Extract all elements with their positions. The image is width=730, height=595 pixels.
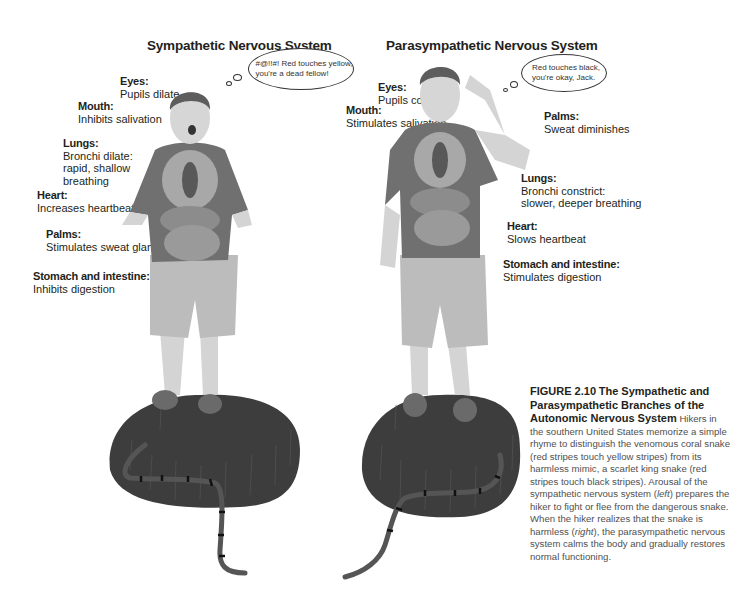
caption-body-right: right: [575, 526, 594, 537]
caption-body-1: Hikers in the southern United States mem…: [530, 413, 730, 499]
caption-label: FIGURE 2.10: [530, 385, 596, 397]
figure-caption: FIGURE 2.10 The Sympathetic and Parasymp…: [530, 385, 730, 563]
caption-body-left: left: [657, 488, 670, 499]
